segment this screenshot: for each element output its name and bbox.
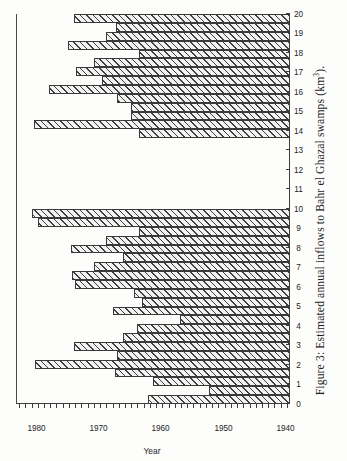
bar-slot bbox=[16, 147, 290, 156]
year-tick-label: 1950 bbox=[209, 424, 237, 433]
bar bbox=[123, 333, 290, 342]
bar bbox=[180, 315, 290, 324]
bar bbox=[68, 41, 290, 50]
year-tick bbox=[262, 404, 263, 408]
bar bbox=[153, 377, 290, 386]
year-tick bbox=[38, 404, 39, 408]
bar-slot bbox=[16, 32, 290, 41]
value-tick-label: 7 bbox=[289, 263, 309, 272]
year-tick bbox=[175, 404, 176, 408]
year-tick bbox=[287, 404, 288, 408]
year-tick bbox=[237, 404, 238, 408]
bar bbox=[49, 85, 290, 94]
bar-slot bbox=[16, 333, 290, 342]
bar bbox=[106, 236, 290, 245]
bar bbox=[139, 50, 290, 59]
value-tick-label: 6 bbox=[289, 283, 309, 292]
bar bbox=[72, 271, 290, 280]
bar-slot bbox=[16, 218, 290, 227]
bar bbox=[116, 23, 290, 32]
bar bbox=[76, 67, 290, 76]
year-tick bbox=[131, 404, 132, 408]
bar bbox=[123, 253, 290, 262]
value-tick-label: 14 bbox=[289, 127, 309, 136]
bar-slot bbox=[16, 245, 290, 254]
bar-slot bbox=[16, 209, 290, 218]
bar-slot bbox=[16, 112, 290, 121]
caption-text: Estimated annual inflows to Bahr el Ghaz… bbox=[314, 77, 327, 349]
x-axis-title: Year bbox=[137, 446, 167, 456]
year-tick bbox=[212, 404, 213, 408]
bar-slot bbox=[16, 129, 290, 138]
bar-slot bbox=[16, 156, 290, 165]
bar-slot bbox=[16, 76, 290, 85]
bar bbox=[38, 218, 290, 227]
value-tick-label: 4 bbox=[289, 322, 309, 331]
bar bbox=[131, 112, 290, 121]
bar-slot bbox=[16, 386, 290, 395]
year-tick bbox=[88, 404, 89, 408]
year-tick bbox=[243, 404, 244, 408]
year-tick bbox=[106, 404, 107, 408]
year-tick bbox=[187, 404, 188, 408]
year-tick bbox=[81, 404, 82, 408]
year-tick bbox=[119, 404, 120, 408]
year-tick bbox=[150, 404, 151, 408]
year-tick bbox=[181, 404, 182, 408]
year-tick bbox=[193, 404, 194, 408]
year-tick bbox=[281, 404, 282, 408]
value-tick-label: 5 bbox=[289, 302, 309, 311]
caption-exponent: 3 bbox=[312, 73, 321, 77]
bar-slot bbox=[16, 280, 290, 289]
bar bbox=[131, 103, 290, 112]
year-tick bbox=[250, 404, 251, 408]
bar-slot bbox=[16, 200, 290, 209]
bar bbox=[106, 32, 290, 41]
year-tick bbox=[100, 404, 101, 408]
year-tick bbox=[162, 404, 163, 408]
value-tick-label: 3 bbox=[289, 341, 309, 350]
bar bbox=[134, 289, 290, 298]
bar-slot bbox=[16, 67, 290, 76]
value-tick-label: 15 bbox=[289, 107, 309, 116]
bar-slot bbox=[16, 271, 290, 280]
year-tick bbox=[25, 404, 26, 408]
bar-slot bbox=[16, 289, 290, 298]
bar bbox=[75, 280, 290, 289]
bar-slot bbox=[16, 262, 290, 271]
value-tick-label: 19 bbox=[289, 29, 309, 38]
bar-slot bbox=[16, 138, 290, 147]
year-tick bbox=[137, 404, 138, 408]
bar-slot bbox=[16, 324, 290, 333]
value-tick-label: 13 bbox=[289, 146, 309, 155]
value-tick-label: 8 bbox=[289, 244, 309, 253]
year-tick bbox=[274, 404, 275, 408]
year-tick bbox=[256, 404, 257, 408]
year-tick bbox=[144, 404, 145, 408]
bar-slot bbox=[16, 23, 290, 32]
bar bbox=[117, 351, 290, 360]
value-tick-label: 9 bbox=[289, 224, 309, 233]
bar-slot bbox=[16, 121, 290, 130]
bar-slot bbox=[16, 307, 290, 316]
bar bbox=[102, 76, 290, 85]
bar bbox=[139, 129, 290, 138]
year-tick bbox=[75, 404, 76, 408]
value-tick-label: 0 bbox=[289, 400, 309, 409]
bar-slot bbox=[16, 191, 290, 200]
bar-slot bbox=[16, 298, 290, 307]
value-tick-label: 17 bbox=[289, 68, 309, 77]
year-tick bbox=[94, 404, 95, 408]
year-tick-label: 1970 bbox=[85, 424, 113, 433]
bar-slot bbox=[16, 103, 290, 112]
year-tick bbox=[32, 404, 33, 408]
value-tick-label: 18 bbox=[289, 49, 309, 58]
bar-slot bbox=[16, 227, 290, 236]
bar-series bbox=[16, 14, 290, 404]
value-tick-label: 10 bbox=[289, 205, 309, 214]
bar-slot bbox=[16, 236, 290, 245]
value-tick-label: 11 bbox=[289, 185, 309, 194]
bar bbox=[74, 14, 290, 23]
bar bbox=[209, 386, 290, 395]
bar-slot bbox=[16, 174, 290, 183]
